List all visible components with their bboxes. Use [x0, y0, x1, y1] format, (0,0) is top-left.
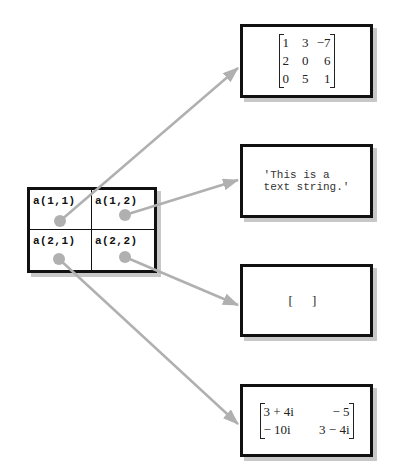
arrow-cell-2-1 — [59, 259, 238, 424]
arrow-cell-1-2 — [125, 180, 238, 215]
dot-icon — [119, 251, 131, 263]
arrow-cell-2-2 — [125, 257, 238, 305]
arrows-layer — [0, 0, 399, 475]
arrow-cell-1-1 — [60, 68, 238, 221]
dot-icon — [53, 253, 65, 265]
dot-icon — [119, 209, 131, 221]
dot-icon — [54, 215, 66, 227]
cell-array-diagram: a(1,1) a(1,2) a(2,1) a(2,2) 1 3 −7 2 0 6 — [0, 0, 399, 475]
